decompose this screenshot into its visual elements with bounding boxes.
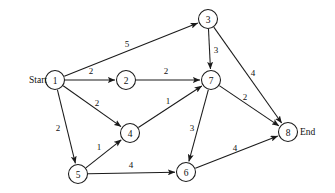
- edge-weight-2-to-7: 2: [164, 66, 169, 76]
- graph-node-8: 8: [279, 123, 298, 142]
- edge-weight-6-to-8: 4: [233, 143, 238, 153]
- end-label: End: [300, 127, 316, 137]
- graph-node-6: 6: [177, 163, 196, 182]
- edge-weight-7-to-6: 3: [190, 123, 195, 133]
- edge-weight-1-to-3: 5: [125, 39, 130, 49]
- node-label-7: 7: [209, 76, 214, 86]
- edge-weight-7-to-8: 2: [243, 92, 248, 102]
- graph-edge-4-to-7: [138, 86, 201, 128]
- graph-edge-1-to-4: [63, 86, 121, 127]
- node-label-8: 8: [286, 128, 291, 138]
- graph-node-7: 7: [202, 71, 221, 90]
- node-label-4: 4: [128, 129, 133, 139]
- edge-weight-5-to-4: 1: [97, 142, 102, 152]
- node-label-2: 2: [124, 76, 129, 86]
- edge-weight-4-to-7: 1: [166, 96, 171, 106]
- graph-edge-3-to-7: [208, 29, 210, 69]
- graph-node-1: 1: [46, 71, 65, 90]
- node-label-5: 5: [76, 170, 81, 180]
- edge-weight-1-to-2: 2: [89, 66, 94, 76]
- edge-weight-3-to-8: 4: [251, 68, 256, 78]
- edge-weight-3-to-7: 3: [214, 45, 219, 55]
- graph-edge-1-to-3: [64, 23, 197, 76]
- graph-diagram: 5222234114324 12345678 Start End: [0, 0, 335, 193]
- graph-edge-3-to-8: [214, 27, 282, 123]
- graph-node-4: 4: [121, 124, 140, 143]
- graph-edge-5-to-4: [86, 140, 122, 168]
- nodes-layer: 12345678: [46, 10, 298, 184]
- node-label-6: 6: [184, 168, 189, 178]
- node-label-3: 3: [206, 15, 211, 25]
- graph-canvas: 5222234114324 12345678 Start End: [0, 0, 335, 193]
- terminal-labels-layer: Start End: [29, 75, 316, 137]
- graph-edge-5-to-6: [88, 172, 175, 174]
- edge-weight-5-to-6: 4: [129, 160, 134, 170]
- start-label: Start: [29, 75, 47, 85]
- node-label-1: 1: [53, 76, 58, 86]
- graph-node-3: 3: [199, 10, 218, 29]
- edge-weights-layer: 5222234114324: [56, 39, 256, 170]
- graph-node-2: 2: [117, 71, 136, 90]
- edge-weight-1-to-4: 2: [95, 98, 100, 108]
- edge-weight-1-to-5: 2: [56, 123, 61, 133]
- graph-node-5: 5: [69, 165, 88, 184]
